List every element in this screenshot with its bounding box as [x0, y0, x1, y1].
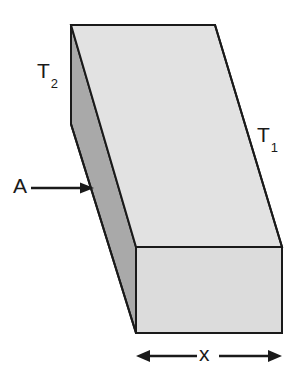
slab-front-face	[136, 247, 282, 333]
figure-canvas: T2 T1 A x	[0, 0, 298, 372]
temperature-t2-subscript: 2	[51, 76, 58, 91]
area-arrow	[31, 183, 94, 194]
temperature-t2-symbol: T	[37, 59, 50, 82]
slab-diagram-svg	[0, 0, 298, 372]
temperature-t1-subscript: 1	[271, 140, 278, 155]
temperature-t1-label: T1	[257, 124, 277, 149]
temperature-t2-label: T2	[37, 60, 57, 85]
length-arrow-head-right	[268, 350, 282, 362]
length-arrow-head-left	[136, 350, 150, 362]
area-label: A	[13, 175, 27, 196]
temperature-t1-symbol: T	[257, 123, 270, 146]
length-label: x	[199, 343, 210, 364]
